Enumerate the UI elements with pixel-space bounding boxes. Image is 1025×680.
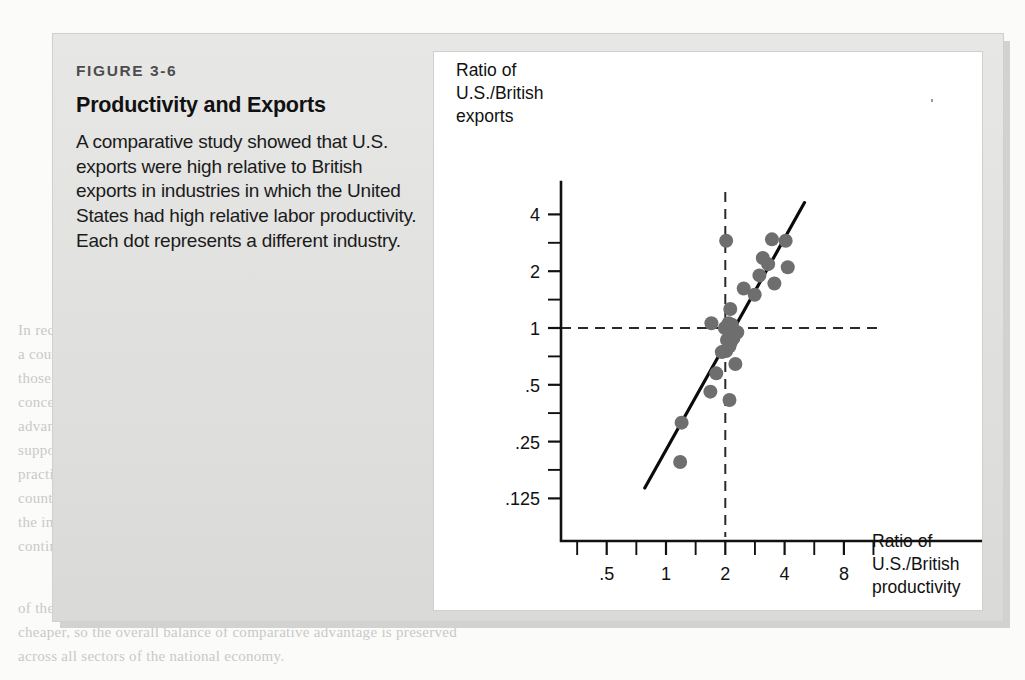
data-point: [730, 325, 744, 339]
y-axis-tick-label: .5: [525, 376, 540, 396]
x-axis-tick-label: 2: [720, 564, 730, 584]
y-axis-tick-label: 2: [530, 262, 540, 282]
figure-box: FIGURE 3-6 Productivity and Exports A co…: [52, 33, 1004, 622]
data-point: [722, 393, 736, 407]
y-axis-tick-label: .25: [515, 433, 540, 453]
figure-number: FIGURE 3-6: [76, 62, 421, 80]
x-axis-tick-label: 4: [780, 564, 790, 584]
data-point: [723, 302, 737, 316]
chart-panel: Ratio of U.S./British exports Ratio of U…: [433, 51, 983, 611]
data-points: [673, 232, 795, 469]
x-axis-tick-label: 1: [661, 564, 671, 584]
data-point: [748, 288, 762, 302]
data-point: [703, 385, 717, 399]
figure-caption: FIGURE 3-6 Productivity and Exports A co…: [76, 62, 421, 253]
y-axis-label-line3: exports: [456, 106, 514, 126]
x-axis-label-line3: productivity: [872, 577, 961, 597]
scatter-plot: Ratio of U.S./British exports Ratio of U…: [434, 52, 982, 610]
figure-description: A comparative study showed that U.S. exp…: [76, 130, 421, 253]
data-point: [761, 257, 775, 271]
y-axis-tick-label: 4: [530, 205, 540, 225]
axis-tick-labels: 421.5.25.125.51248: [505, 205, 849, 584]
y-axis-tick-label: 1: [530, 319, 540, 339]
data-point: [752, 268, 766, 282]
x-axis-tick-label: .5: [599, 564, 614, 584]
data-point: [765, 232, 779, 246]
data-point: [673, 455, 687, 469]
data-point: [728, 357, 742, 371]
y-axis-tick-label: .125: [505, 489, 540, 509]
data-point: [781, 260, 795, 274]
x-axis-tick-label: 8: [839, 564, 849, 584]
data-point: [779, 234, 793, 248]
data-point: [675, 416, 689, 430]
data-point: [719, 234, 733, 248]
y-axis-label-line1: Ratio of: [456, 60, 516, 80]
data-point: [767, 277, 781, 291]
x-axis-label-line2: U.S./British: [872, 554, 960, 574]
data-point: [704, 316, 718, 330]
y-axis-label-line2: U.S./British: [456, 83, 544, 103]
figure-title: Productivity and Exports: [76, 93, 421, 118]
data-point: [709, 366, 723, 380]
